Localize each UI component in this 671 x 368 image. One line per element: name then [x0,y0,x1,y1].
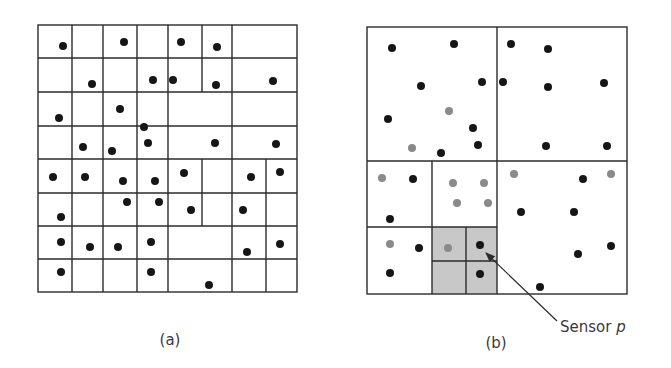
sensor-dot-active [388,44,396,52]
sensor-dot-active [607,242,615,250]
sensor-dot [239,206,247,214]
sensor-dot [57,268,65,276]
sensor-dot [57,213,65,221]
sensor-p-annotation-var: p [615,318,626,336]
sensor-dot [177,38,185,46]
sensor-dot-active [409,175,417,183]
panel-a-caption: (a) [160,331,181,349]
sensor-dot-inactive [386,240,394,248]
sensor-dot-active [415,244,423,252]
panel-a-sensor-dots [49,38,284,289]
sensor-dot-active [570,208,578,216]
sensor-dot-active [469,124,477,132]
sensor-dot [119,177,127,185]
sensor-p-annotation-prefix: Sensor [560,318,616,336]
sensor-dot-active [574,250,582,258]
sensor-dot [59,42,67,50]
sensor-dot-active [600,79,608,87]
sensor-dot-inactive [444,244,452,252]
sensor-dot [81,173,89,181]
sensor-dot [57,238,65,246]
sensor-dot-active [544,83,552,91]
sensor-dot-active [507,40,515,48]
sensor-dot-active [499,78,507,86]
sensor-dot-active [386,215,394,223]
sensor-dot-active [386,269,394,277]
sensor-dot-active [384,115,392,123]
sensor-dot [243,248,251,256]
sensor-dot-active [450,40,458,48]
sensor-dot-inactive [408,144,416,152]
sensor-dot [149,76,157,84]
sensor-dot-active [417,82,425,90]
sensor-p-annotation: Sensor p [560,318,626,336]
sensor-dot [123,198,131,206]
sensor-dot [114,243,122,251]
sensor-dot [88,80,96,88]
sensor-dot [79,143,87,151]
sensor-dot [144,139,152,147]
sensor-dot [55,114,63,122]
sensor-dot [155,198,163,206]
sensor-dot [205,281,213,289]
panel-b-caption: (b) [485,334,506,352]
sensor-dot [213,43,221,51]
sensor-dot [108,147,116,155]
sensor-dot-active [474,141,482,149]
sensor-dot-active [542,142,550,150]
sensor-dot-inactive [510,170,518,178]
sensor-dot [147,238,155,246]
sensor-dot [276,168,284,176]
sensor-dot [212,81,220,89]
sensor-dot-active [603,142,611,150]
sensor-dot-inactive [453,199,461,207]
sensor-dot-inactive [480,179,488,187]
sensor-dot-active [517,208,525,216]
sensor-dot [116,105,124,113]
panel-a-grid-lines [38,25,297,292]
sensor-dot-inactive [484,199,492,207]
sensor-dot-inactive [607,170,615,178]
sensor-dot-active [476,270,484,278]
sensor-dot [86,243,94,251]
sensor-dot [276,240,284,248]
sensor-dot [180,169,188,177]
sensor-dot [120,38,128,46]
diagram-canvas: (a) Sensor p (b) [0,0,671,368]
sensor-dot [269,77,277,85]
sensor-dot [169,76,177,84]
sensor-dot [187,206,195,214]
sensor-dot [211,139,219,147]
sensor-dot-active [478,78,486,86]
sensor-dot [140,123,148,131]
sensor-dot-inactive [445,107,453,115]
sensor-dot [247,173,255,181]
panel-b-quadtree-grid: Sensor p (b) [367,27,627,352]
sensor-dot-active [476,241,484,249]
sensor-dot-active [536,283,544,291]
sensor-dot-active [437,149,445,157]
panel-b-grid-lines [367,27,627,294]
sensor-dot [147,268,155,276]
sensor-dot-active [544,45,552,53]
sensor-dot [272,140,280,148]
sensor-dot [49,173,57,181]
sensor-dot [151,177,159,185]
panel-a-uniform-grid: (a) [38,25,297,349]
sensor-dot-inactive [378,174,386,182]
sensor-dot-active [579,175,587,183]
sensor-dot-inactive [449,179,457,187]
